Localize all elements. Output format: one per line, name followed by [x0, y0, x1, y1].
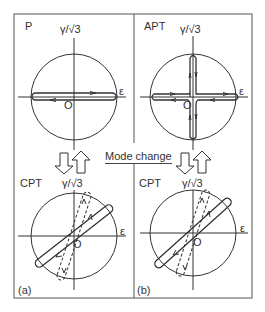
y-axis-label: γ/√3 [182, 178, 203, 189]
panel-cpt-a [18, 190, 126, 290]
sublabel-a: (a) [18, 285, 31, 296]
panel-label-p: P [25, 21, 32, 32]
y-axis-label: γ/√3 [60, 24, 81, 35]
panel-p [18, 38, 126, 150]
origin-label: O [64, 100, 73, 111]
x-axis-label: ε [120, 226, 125, 237]
mode-change-label: Mode change [105, 150, 172, 164]
x-axis-label: ε [239, 86, 244, 97]
panel-label-cpt-a: CPT [20, 178, 42, 189]
panel-label-cpt-b: CPT [139, 178, 161, 189]
mode-change-arrows-right [176, 151, 211, 174]
origin-label: O [73, 239, 82, 250]
x-axis-label: ε [240, 223, 245, 234]
x-axis-label: ε [119, 86, 124, 97]
origin-label: O [193, 237, 202, 248]
panel-label-apt: APT [144, 21, 165, 32]
y-axis-label: γ/√3 [62, 178, 83, 189]
y-axis-label: γ/√3 [180, 24, 201, 35]
panel-apt [140, 36, 248, 150]
sublabel-b: (b) [137, 285, 150, 296]
mode-change-arrows-left [55, 151, 90, 174]
origin-label: O [183, 100, 192, 111]
